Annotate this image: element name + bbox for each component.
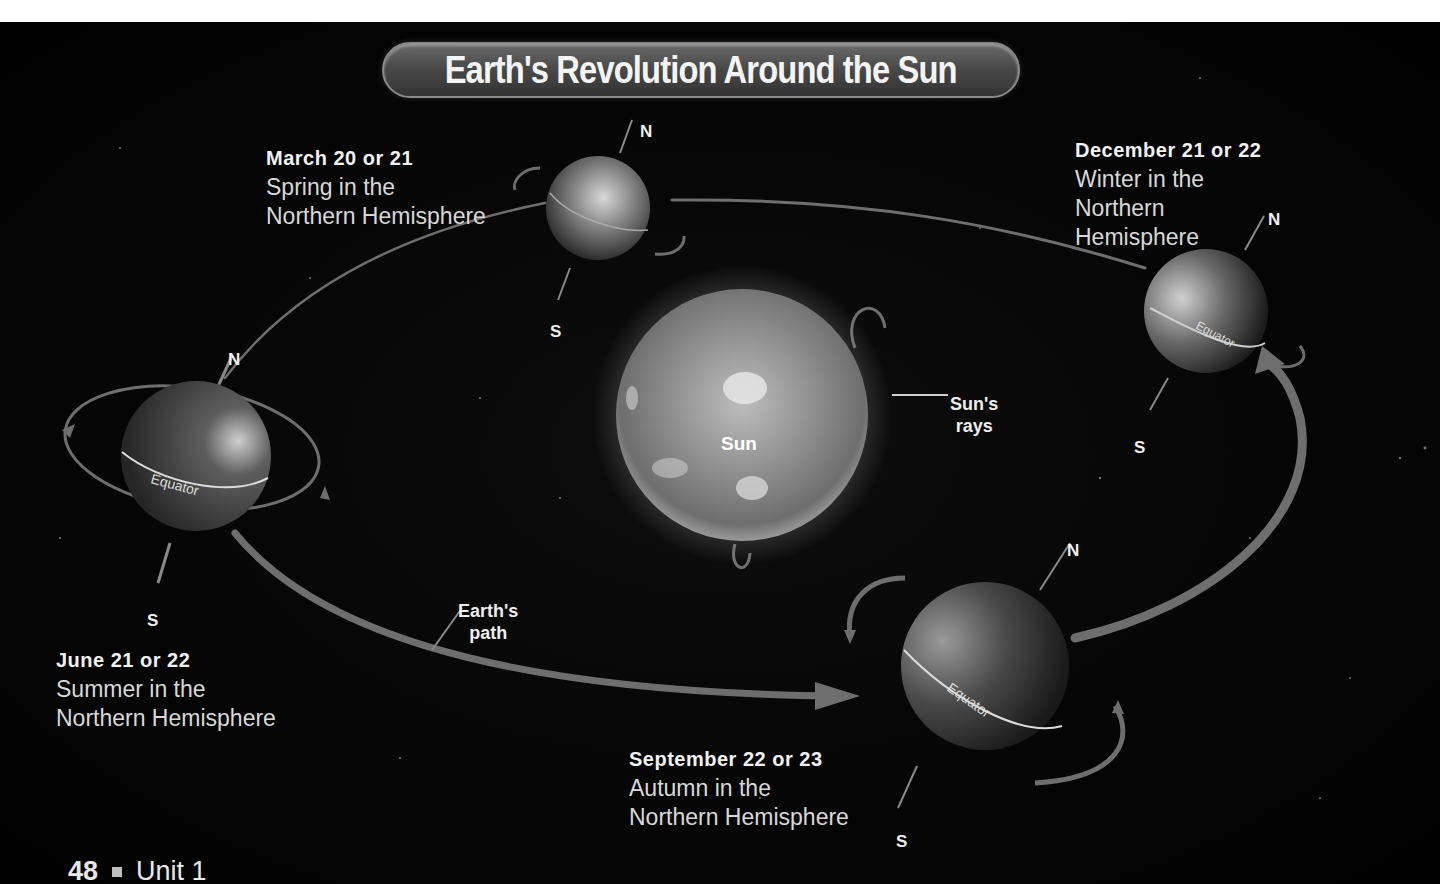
page-footer: 48 Unit 1 [68, 856, 207, 884]
season-september-line1: Autumn in the [629, 774, 849, 803]
earth-march [514, 120, 684, 300]
season-december-line3: Hemisphere [1075, 223, 1261, 252]
date-june: June 21 or 22 [56, 646, 276, 675]
pole-n-march: N [640, 122, 652, 142]
pole-s-march: S [550, 322, 561, 342]
pole-n-september: N [1067, 541, 1079, 561]
season-march-line1: Spring in the [266, 173, 486, 202]
page-title: Earth's Revolution Around the Sun [445, 49, 957, 92]
pole-n-june: N [228, 350, 240, 370]
season-december-line1: Winter in the [1075, 165, 1261, 194]
suns-rays-line2: rays [950, 415, 998, 437]
suns-rays-line1: Sun's [950, 393, 998, 415]
season-september-line2: Northern Hemisphere [629, 803, 849, 832]
label-march: March 20 or 21 Spring in the Northern He… [266, 144, 486, 231]
pole-n-december: N [1268, 210, 1280, 230]
earths-path-line1: Earth's [458, 600, 518, 622]
date-september: September 22 or 23 [629, 745, 849, 774]
label-june: June 21 or 22 Summer in the Northern Hem… [56, 646, 276, 733]
sun-label: Sun [721, 433, 757, 455]
season-december-line2: Northern [1075, 194, 1261, 223]
pole-s-september: S [896, 832, 907, 852]
label-september: September 22 or 23 Autumn in the Norther… [629, 745, 849, 832]
suns-rays-callout: Sun's rays [950, 393, 998, 437]
unit-label: Unit 1 [136, 856, 207, 884]
page-number: 48 [68, 856, 98, 884]
earths-path-callout: Earth's path [458, 600, 518, 644]
title-banner: Earth's Revolution Around the Sun [382, 42, 1020, 98]
sun [592, 265, 892, 568]
season-june-line2: Northern Hemisphere [56, 704, 276, 733]
earth-september: Equator [844, 543, 1124, 808]
earths-path-line2: path [458, 622, 518, 644]
pole-s-june: S [147, 611, 158, 631]
date-march: March 20 or 21 [266, 144, 486, 173]
season-march-line2: Northern Hemisphere [266, 202, 486, 231]
earth-june: Equator [57, 356, 330, 583]
date-december: December 21 or 22 [1075, 136, 1261, 165]
pole-s-december: S [1134, 438, 1145, 458]
bullet-separator [112, 867, 122, 877]
label-december: December 21 or 22 Winter in the Northern… [1075, 136, 1261, 252]
season-june-line1: Summer in the [56, 675, 276, 704]
